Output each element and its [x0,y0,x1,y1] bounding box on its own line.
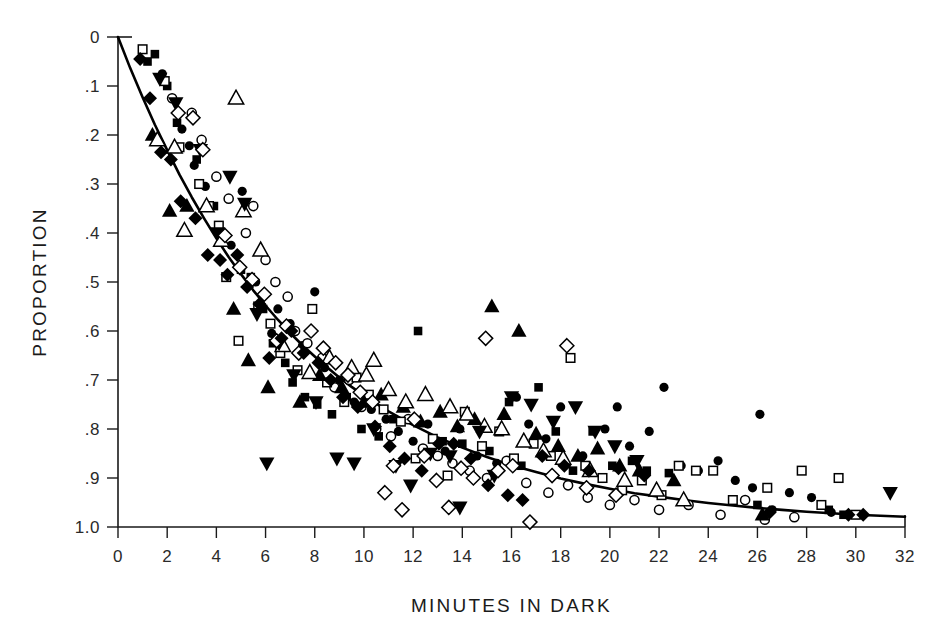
marker-open-triangle-up [442,399,457,413]
marker-filled-circle [659,383,668,392]
marker-filled-square [414,327,423,336]
x-tick-label: 6 [261,547,271,566]
marker-open-square [729,496,738,505]
dark-adaptation-scatter-figure: 0.1.2.3.4.5.6.7.8.91.0024681012141618202… [0,0,936,641]
marker-open-square [709,466,718,475]
marker-filled-triangle-up [226,301,241,315]
marker-filled-circle [731,476,740,485]
marker-open-square [195,180,204,189]
y-tick-label: .6 [85,322,100,341]
marker-open-triangle-up [418,387,433,401]
marker-open-square [266,319,275,328]
x-tick-label: 12 [403,547,423,566]
series-open-diamond [171,106,623,529]
marker-filled-diamond [201,248,215,262]
marker-filled-square [281,359,290,368]
marker-open-circle [522,478,531,487]
marker-filled-circle [748,483,757,492]
x-axis-title: MINUTES IN DARK [411,595,612,616]
marker-open-circle [605,500,614,509]
x-tick-label: 32 [895,547,915,566]
marker-filled-triangle-down [568,401,583,415]
marker-filled-square [753,501,762,510]
marker-filled-triangle-down [329,453,344,467]
data-points [133,45,898,529]
marker-filled-diamond [262,351,276,365]
marker-filled-square [328,410,337,419]
marker-filled-circle [310,287,319,296]
y-tick-label: 1.0 [75,518,100,537]
marker-open-square [566,354,575,363]
marker-open-triangle-up [617,472,632,486]
marker-open-square [234,337,243,346]
marker-filled-circle [556,402,565,411]
marker-open-square [674,461,683,470]
marker-open-circle [386,432,395,441]
marker-open-square [397,417,406,426]
marker-filled-triangle-down [346,457,361,471]
marker-filled-circle [613,402,622,411]
marker-open-diamond [479,331,493,345]
marker-open-triangle-up [253,242,268,256]
marker-open-square [443,471,452,480]
marker-filled-triangle-down [607,440,622,454]
marker-open-circle [271,277,280,286]
x-tick-label: 18 [551,547,571,566]
marker-open-triangle-up [381,382,396,396]
marker-open-circle [654,505,663,514]
marker-filled-triangle-down [403,480,418,494]
marker-open-triangle-up [302,365,317,379]
marker-filled-triangle-down [883,487,898,501]
x-tick-label: 4 [211,547,221,566]
y-tick-label: .2 [85,126,100,145]
marker-filled-circle [524,420,533,429]
marker-filled-triangle-up [241,352,256,366]
marker-open-circle [303,339,312,348]
y-tick-label: .7 [85,371,100,390]
marker-filled-circle [273,304,282,313]
marker-open-circle [790,513,799,522]
marker-filled-square [569,466,578,475]
marker-open-triangle-up [649,482,664,496]
marker-filled-circle [238,187,247,196]
marker-filled-diamond [164,152,178,166]
marker-filled-diamond [415,464,429,478]
marker-open-diamond [304,324,318,338]
marker-open-circle [563,481,572,490]
marker-open-square [763,484,772,493]
marker-filled-diamond [516,493,530,507]
marker-open-triangle-up [398,394,413,408]
marker-open-circle [261,255,270,264]
marker-open-triangle-up [366,352,381,366]
marker-open-circle [249,201,258,210]
marker-open-diamond [429,473,443,487]
x-tick-label: 20 [600,547,620,566]
marker-filled-diamond [213,253,227,267]
marker-open-triangle-up [228,90,243,104]
marker-filled-circle [625,442,634,451]
x-tick-label: 22 [649,547,669,566]
marker-filled-square [151,50,160,59]
marker-filled-circle [755,410,764,419]
marker-filled-triangle-up [162,203,177,217]
marker-filled-triangle-up [484,298,499,312]
y-tick-label: 0 [90,28,100,47]
x-tick-label: 28 [797,547,817,566]
marker-open-circle [224,194,233,203]
marker-open-square [379,405,388,414]
marker-open-circle [283,292,292,301]
marker-filled-triangle-down [524,399,539,413]
marker-open-circle [212,172,221,181]
x-tick-label: 26 [747,547,767,566]
marker-open-circle [741,495,750,504]
marker-filled-diamond [501,488,515,502]
marker-open-diamond [545,469,559,483]
y-tick-label: .3 [85,175,100,194]
marker-filled-triangle-down [222,171,237,185]
marker-filled-triangle-up [590,441,605,455]
marker-filled-square [534,383,543,392]
y-axis-title: PROPORTION [29,207,50,356]
marker-open-diamond [395,503,409,517]
marker-filled-triangle-up [496,406,511,420]
y-tick-label: .8 [85,420,100,439]
